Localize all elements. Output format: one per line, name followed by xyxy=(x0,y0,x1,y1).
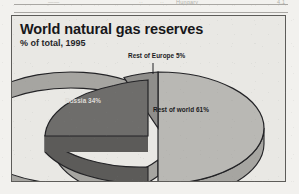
pie-chart-plot-area: Rest of Europe 5% Russia 34% Rest of wor… xyxy=(12,50,285,181)
slice-label-rest-of-world: Rest of world 61% xyxy=(153,106,209,113)
scan-fragment-3: ·· xyxy=(160,0,164,5)
slice-russia-inner-wall xyxy=(45,136,148,152)
chart-title: World natural gas reserves xyxy=(20,21,203,37)
scan-rule-bottom xyxy=(14,12,288,13)
scan-remnant-strip: —— ·· ·· Hungary 4.1 xyxy=(0,0,299,14)
scan-fragment-hungary: Hungary xyxy=(176,0,198,5)
scan-fragment-1: —— xyxy=(48,0,59,5)
scan-fragment-value: 4.1 xyxy=(277,0,285,5)
slice-label-rest-of-europe: Rest of Europe 5% xyxy=(128,52,185,59)
pie-chart-svg xyxy=(12,50,285,181)
scan-fragment-2: ·· xyxy=(139,0,143,5)
slice-label-russia: Russia 34% xyxy=(65,97,101,104)
figure-panel: World natural gas reserves % of total, 1… xyxy=(11,15,286,182)
chart-subtitle: % of total, 1995 xyxy=(20,38,86,48)
